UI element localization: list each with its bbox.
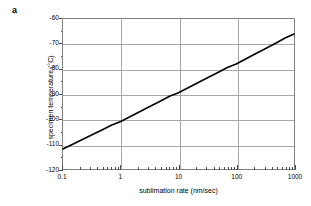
- x-axis-minor-tick: [155, 167, 156, 170]
- x-axis-minor-tick: [111, 167, 112, 170]
- x-axis-tick-labels: 0.11101001000: [62, 174, 295, 184]
- panel-label: a: [12, 6, 17, 15]
- x-axis-minor-tick: [254, 167, 255, 170]
- x-axis-minor-tick: [115, 167, 116, 170]
- x-axis-tick-label: 100: [217, 174, 257, 181]
- x-axis-tick-marks: [62, 164, 295, 170]
- x-axis-minor-tick: [272, 167, 273, 170]
- y-axis-tick-label: -60: [35, 15, 59, 22]
- x-axis-minor-tick: [173, 167, 174, 170]
- x-axis-minor-tick: [289, 167, 290, 170]
- x-axis-minor-tick: [196, 167, 197, 170]
- x-axis-tick: [179, 165, 180, 170]
- x-axis-minor-tick: [118, 167, 119, 170]
- x-axis-title: sublimation rate (nm/sec): [62, 187, 295, 194]
- x-axis-tick: [120, 165, 121, 170]
- x-axis-tick: [62, 165, 63, 170]
- x-axis-tick-label: 0.1: [42, 174, 82, 181]
- x-axis-minor-tick: [107, 167, 108, 170]
- figure-panel: a specimen temperature (°C) -60-70-80-90…: [0, 0, 311, 206]
- x-axis-minor-tick: [292, 167, 293, 170]
- y-axis-tick-label: -120: [35, 167, 59, 174]
- x-axis-tick-label: 10: [159, 174, 199, 181]
- x-axis-minor-tick: [286, 167, 287, 170]
- data-curve: [63, 19, 294, 169]
- x-axis-minor-tick: [277, 167, 278, 170]
- x-axis-minor-tick: [90, 167, 91, 170]
- x-axis-minor-tick: [103, 167, 104, 170]
- x-axis-minor-tick: [265, 167, 266, 170]
- y-axis-tick-label: -100: [35, 116, 59, 123]
- x-axis-minor-tick: [234, 167, 235, 170]
- x-axis-minor-tick: [231, 167, 232, 170]
- x-axis-minor-tick: [224, 167, 225, 170]
- x-axis-minor-tick: [219, 167, 220, 170]
- y-axis-tick-label: -110: [35, 141, 59, 148]
- x-axis-minor-tick: [166, 167, 167, 170]
- x-axis-minor-tick: [169, 167, 170, 170]
- x-axis-minor-tick: [282, 167, 283, 170]
- x-axis-minor-tick: [161, 167, 162, 170]
- y-axis-tick-label: -90: [35, 91, 59, 98]
- y-axis-tick-labels: -60-70-80-90-100-110-120: [33, 18, 59, 170]
- x-axis-tick-label: 1000: [275, 174, 311, 181]
- x-axis-minor-tick: [176, 167, 177, 170]
- x-axis-minor-tick: [228, 167, 229, 170]
- x-axis-minor-tick: [80, 167, 81, 170]
- y-axis-tick-label: -80: [35, 65, 59, 72]
- plot-area: [62, 18, 295, 170]
- x-axis-minor-tick: [206, 167, 207, 170]
- x-axis-tick: [237, 165, 238, 170]
- x-axis-tick: [295, 165, 296, 170]
- x-axis-minor-tick: [138, 167, 139, 170]
- x-axis-minor-tick: [148, 167, 149, 170]
- y-axis-tick-label: -70: [35, 40, 59, 47]
- x-axis-minor-tick: [214, 167, 215, 170]
- x-axis-tick-label: 1: [100, 174, 140, 181]
- x-axis-minor-tick: [97, 167, 98, 170]
- y-axis-tick: [59, 170, 63, 171]
